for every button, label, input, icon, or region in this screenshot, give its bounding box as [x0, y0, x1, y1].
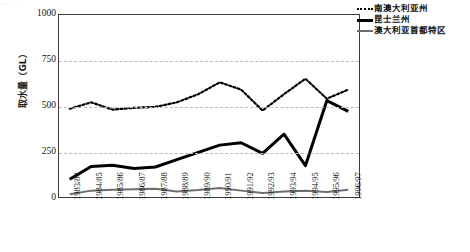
- gridline: [59, 153, 359, 154]
- y-tick-label: 1000: [37, 9, 56, 18]
- legend-item-label: 澳大利亚首都特区: [374, 25, 446, 35]
- y-tick-label: 250: [42, 147, 56, 156]
- chart-legend: 南澳大利亚州昆士兰州澳大利亚首都特区: [357, 3, 469, 36]
- y-axis-tick-labels: 02505007501000: [16, 0, 56, 252]
- x-tick-label: 1989/90: [202, 172, 212, 200]
- x-tick-label: 1990/91: [223, 172, 233, 200]
- legend-swatch-icon: [357, 25, 373, 35]
- x-tick-label: 1996/97: [353, 172, 363, 200]
- y-tick-label: 500: [42, 101, 56, 110]
- x-tick-label: 1992/93: [266, 172, 276, 200]
- gridline: [59, 107, 359, 108]
- y-tick-label: 0: [51, 193, 56, 202]
- x-tick-label: 1984/85: [94, 172, 104, 200]
- gridline: [59, 61, 359, 62]
- x-tick-label: 1991/92: [245, 172, 255, 200]
- legend-swatch-icon: [357, 14, 373, 24]
- legend-item[interactable]: 南澳大利亚州: [357, 3, 469, 13]
- x-tick-label: 1993/94: [288, 172, 298, 200]
- x-tick-label: 1986/87: [137, 172, 147, 200]
- series-line: [70, 101, 349, 180]
- x-tick-label: 1988/89: [180, 172, 190, 200]
- x-tick-label: 1983/84: [72, 172, 82, 200]
- chart-container: ·· · · 取水量（GL） 02505007501000 1983/84198…: [0, 0, 470, 252]
- x-tick-label: 1987/88: [159, 172, 169, 200]
- legend-item-label: 南澳大利亚州: [374, 3, 428, 13]
- y-tick-label: 750: [42, 55, 56, 64]
- series-line: [70, 79, 349, 111]
- x-tick-label: 1994/95: [310, 172, 320, 200]
- legend-item[interactable]: 澳大利亚首都特区: [357, 25, 469, 35]
- series-lines-svg: [59, 15, 359, 197]
- legend-item-label: 昆士兰州: [374, 14, 410, 24]
- plot-area: [58, 14, 360, 198]
- legend-swatch-icon: [357, 3, 373, 13]
- legend-item[interactable]: 昆士兰州: [357, 14, 469, 24]
- x-axis-tick-labels: 1983/841984/851985/861986/871987/881988/…: [58, 198, 360, 252]
- x-tick-label: 1985/86: [115, 172, 125, 200]
- x-tick-label: 1995/96: [331, 172, 341, 200]
